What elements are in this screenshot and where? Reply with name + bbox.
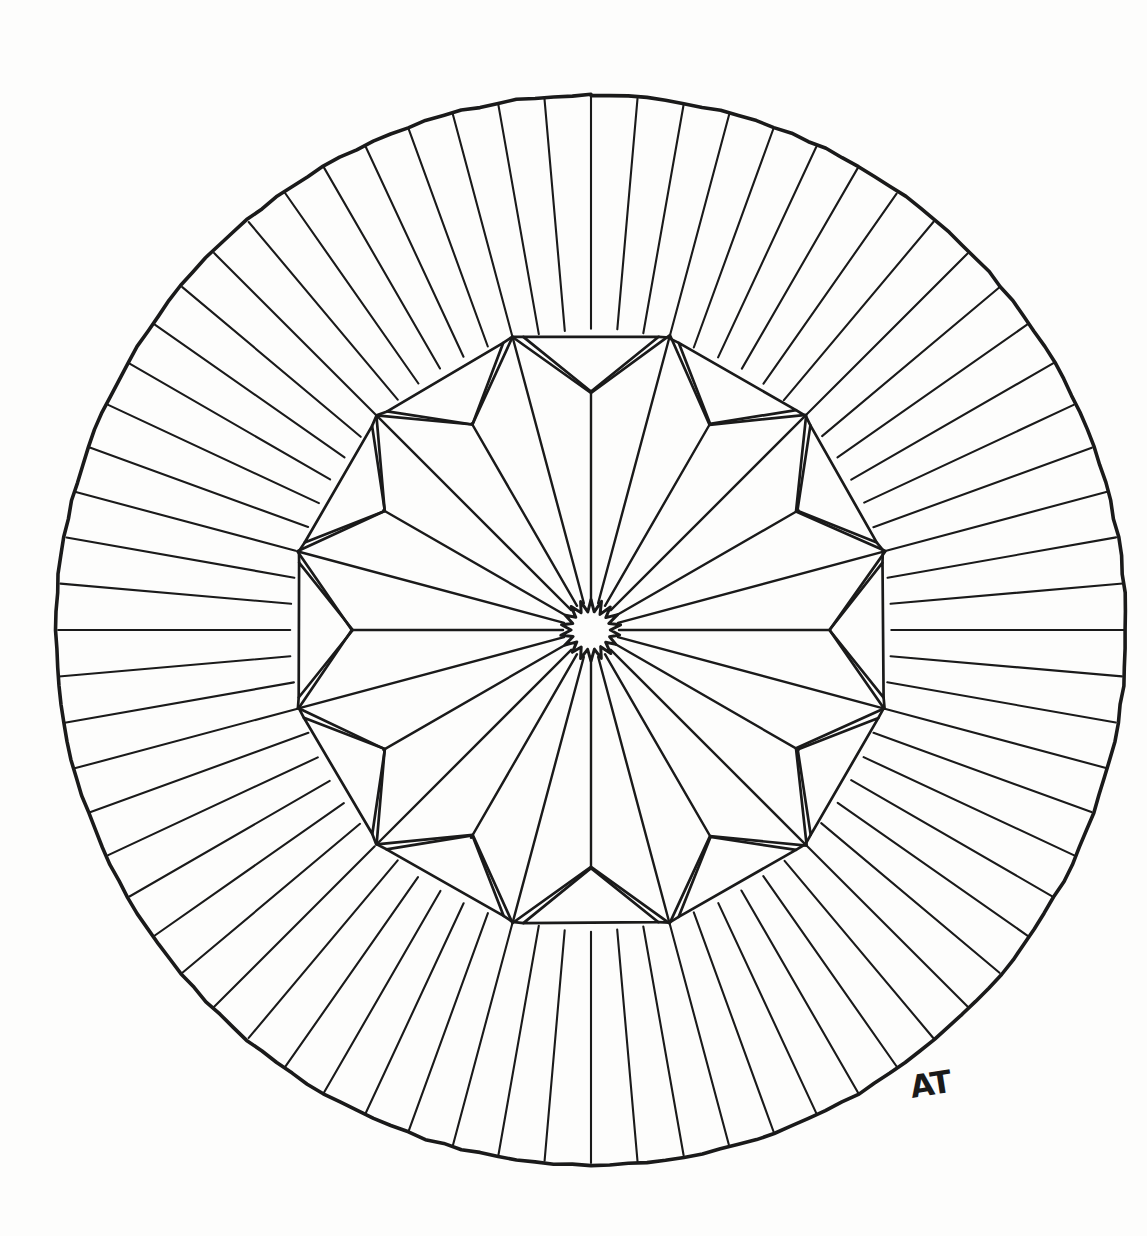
artist-signature: AT xyxy=(907,1063,954,1105)
drawing-canvas: AT xyxy=(0,0,1147,1236)
mandala-illustration: AT xyxy=(0,0,1147,1236)
